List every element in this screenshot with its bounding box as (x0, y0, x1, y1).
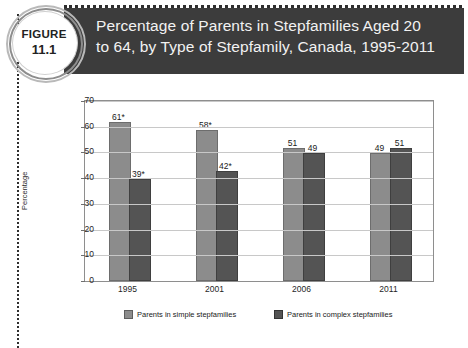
bar-2001-complex (216, 171, 238, 281)
bars-layer: 61*39*58*42*51494951 (85, 101, 433, 281)
gridline (85, 230, 433, 231)
legend-swatch-icon (274, 310, 283, 319)
x-axis-tick: 2006 (272, 284, 332, 294)
bar-2011-complex (390, 148, 412, 281)
y-axis-tick: 50 (54, 146, 94, 156)
gridline (85, 178, 433, 179)
legend-label: Parents in simple stepfamilies (137, 310, 236, 319)
gridline (85, 127, 433, 128)
bar-value-label: 51 (380, 138, 420, 148)
gridline (85, 204, 433, 205)
figure-title-banner: Percentage of Parents in Stepfamilies Ag… (64, 8, 464, 74)
legend-swatch-icon (124, 310, 133, 319)
bar-2011-simple (370, 153, 392, 281)
gridline (85, 101, 433, 102)
bar-value-label: 58* (186, 120, 226, 130)
gridline (85, 255, 433, 256)
gridline (85, 152, 433, 153)
bar-1995-simple (109, 122, 131, 281)
legend-item-complex: Parents in complex stepfamilies (274, 310, 392, 319)
bar-2006-complex (303, 153, 325, 281)
plot-area: 61*39*58*42*51494951 (84, 100, 434, 282)
figure-title: Percentage of Parents in Stepfamilies Ag… (96, 15, 468, 57)
legend-item-simple: Parents in simple stepfamilies (124, 310, 236, 319)
x-axis-tick: 2011 (359, 284, 419, 294)
bar-chart: Percentage 61*39*58*42*51494951 01020304… (36, 92, 446, 342)
badge-text-group: FIGURE 11.1 (12, 11, 76, 73)
x-axis-tick: 2001 (185, 284, 245, 294)
figure-badge: FIGURE 11.1 (6, 9, 84, 75)
y-axis-tick: 40 (54, 172, 94, 182)
bar-2006-simple (283, 148, 305, 281)
y-axis-tick: 70 (54, 95, 94, 105)
y-axis-tick: 30 (54, 198, 94, 208)
bar-value-label: 61* (99, 112, 139, 122)
y-axis-tick: 20 (54, 224, 94, 234)
chart-legend: Parents in simple stepfamiliesParents in… (84, 310, 432, 326)
badge-word: FIGURE (21, 28, 66, 40)
y-axis-tick: 60 (54, 121, 94, 131)
bar-value-label: 42* (206, 161, 246, 171)
legend-label: Parents in complex stepfamilies (287, 310, 392, 319)
y-axis-label: Percentage (20, 172, 29, 210)
badge-number: 11.1 (32, 42, 57, 57)
x-axis-tick: 1995 (98, 284, 158, 294)
y-axis-tick: 10 (54, 249, 94, 259)
y-axis-tick: 0 (54, 275, 94, 285)
